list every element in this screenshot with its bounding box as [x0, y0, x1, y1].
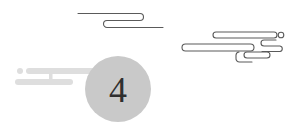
cloud-lines-right-icon — [182, 32, 284, 62]
step-number-badge: 4 — [85, 56, 151, 122]
decorative-artwork — [0, 0, 301, 133]
cloud-line-top-icon — [78, 14, 163, 28]
step-number: 4 — [109, 72, 127, 108]
